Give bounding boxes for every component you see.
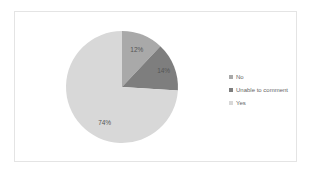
legend-swatch-no [229,75,233,79]
legend: No Unable to comment Yes [229,70,288,109]
legend-swatch-yes [229,101,233,105]
legend-label-no: No [236,74,244,80]
legend-label-unable: Unable to comment [236,87,288,93]
data-label-unable-to-comment: 14% [157,67,170,74]
legend-item-unable: Unable to comment [229,83,288,96]
legend-label-yes: Yes [236,100,246,106]
legend-item-no: No [229,70,288,83]
legend-swatch-unable [229,88,233,92]
legend-item-yes: Yes [229,96,288,109]
data-label-yes: 74% [98,119,111,126]
data-label-no: 12% [130,46,143,53]
